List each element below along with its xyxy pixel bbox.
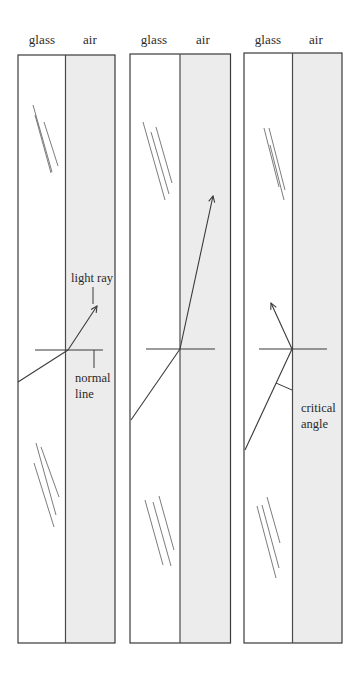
light-ray-label: light ray — [71, 270, 113, 286]
normal-line-label-line2: line — [75, 386, 94, 402]
panel-2 — [130, 54, 231, 643]
panel-1-glass-region — [18, 55, 66, 643]
panel-3 — [244, 53, 342, 643]
critical-angle-label-line1: critical — [301, 400, 336, 416]
panel-1 — [18, 55, 115, 643]
critical-angle-label-line2: angle — [301, 416, 328, 432]
panel-1-air-region — [66, 55, 116, 643]
panel-3-air-region — [293, 53, 343, 643]
panel-3-glass-region — [244, 53, 293, 643]
diagram-canvas — [0, 0, 362, 674]
normal-line-label-line1: normal — [75, 370, 110, 386]
refraction-diagram: glass air glass air glass air — [0, 0, 362, 674]
